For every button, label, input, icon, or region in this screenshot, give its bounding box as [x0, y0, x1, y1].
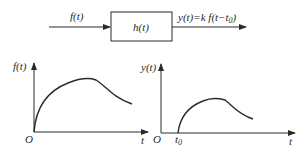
output-label: y(t)=k f(t−t0)	[177, 11, 237, 25]
block-label: h(t)	[133, 21, 149, 34]
y-label-right: y(t)	[140, 61, 157, 74]
x-label-left: t	[141, 134, 145, 146]
x-label-right: t	[289, 135, 293, 147]
delay-label: t0	[175, 133, 182, 147]
origin-label-left: O	[25, 133, 33, 145]
block-diagram: f(t) h(t) y(t)=k f(t−t0)	[49, 10, 246, 41]
input-label: f(t)	[70, 10, 84, 23]
y-label-left: f(t)	[13, 60, 27, 73]
origin-label-right: O	[153, 133, 161, 145]
plot-input-signal: f(t) t O	[13, 60, 148, 146]
output-signal-curve	[178, 99, 253, 133]
delay-system-diagram: f(t) h(t) y(t)=k f(t−t0) f(t) t O y(t) t…	[0, 0, 306, 154]
plot-output-signal: y(t) t O t0	[140, 61, 295, 147]
input-signal-curve	[34, 79, 132, 132]
